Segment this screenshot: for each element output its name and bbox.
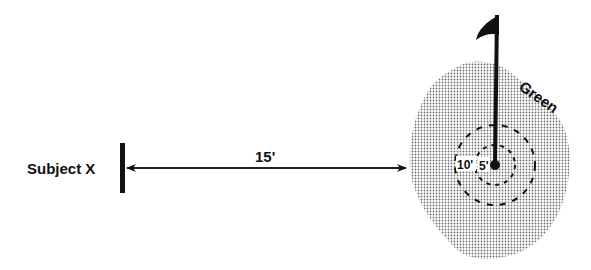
inner-ring-label: 5' — [479, 159, 489, 173]
subject-label: Subject X — [27, 160, 95, 177]
hole-icon — [490, 160, 500, 170]
flag-pole-icon — [495, 15, 497, 165]
golf-putt-diagram: 10' 5' Green Subject X 15' — [0, 0, 591, 270]
subject-marker — [120, 143, 125, 193]
outer-ring-label: 10' — [457, 158, 473, 172]
distance-label: 15' — [255, 148, 275, 165]
